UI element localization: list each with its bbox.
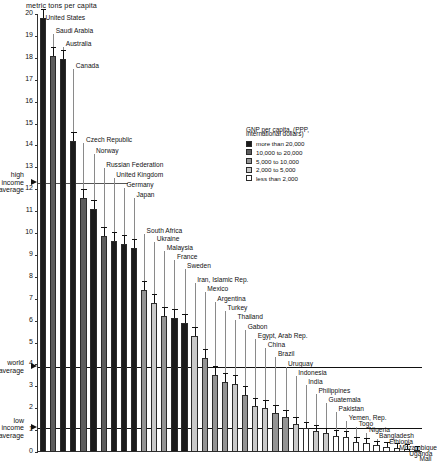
bar-saudi-arabia bbox=[50, 56, 56, 452]
bar-whisker bbox=[356, 437, 357, 442]
y-axis-tick-label: 12 bbox=[25, 184, 33, 191]
legend-label: less than 2,000 bbox=[256, 175, 298, 182]
legend-label: 2,000 to 5,000 bbox=[256, 166, 296, 173]
bar-russian-federation bbox=[101, 236, 107, 452]
label-leader-line bbox=[326, 403, 327, 428]
bar-australia bbox=[60, 59, 66, 452]
y-axis-tick-mark bbox=[35, 36, 38, 37]
bar-nigeria bbox=[363, 443, 369, 452]
whisker-cap bbox=[152, 294, 157, 295]
bar-iran-islamic-rep bbox=[191, 336, 197, 452]
legend-label: 5,000 to 10,000 bbox=[256, 158, 299, 165]
country-label-united-kingdom: United Kingdom bbox=[116, 171, 163, 178]
whisker-cap bbox=[61, 50, 66, 51]
y-axis-tick-label: 19 bbox=[25, 31, 33, 38]
legend-entry: less than 2,000 bbox=[246, 175, 421, 182]
whisker-cap bbox=[192, 327, 197, 328]
legend-swatch bbox=[246, 149, 252, 155]
y-axis-tick-mark bbox=[35, 14, 38, 15]
y-axis-tick-label: 18 bbox=[25, 53, 33, 60]
country-label-canada: Canada bbox=[76, 62, 99, 69]
whisker-cap bbox=[334, 430, 339, 431]
label-leader-line bbox=[235, 320, 236, 375]
y-axis-tick-mark bbox=[35, 124, 38, 125]
whisker-cap bbox=[314, 425, 319, 426]
reference-line-arrow bbox=[31, 179, 37, 185]
y-axis-tick-label: 14 bbox=[25, 140, 33, 147]
bar-malaysia bbox=[161, 316, 167, 452]
country-label-united-states: United States bbox=[46, 14, 86, 21]
y-axis-tick-mark bbox=[35, 386, 38, 387]
legend-entry: 2,000 to 5,000 bbox=[246, 166, 421, 173]
label-leader-line bbox=[306, 385, 307, 422]
bar-whisker bbox=[114, 232, 115, 241]
bar-whisker bbox=[265, 400, 266, 408]
bar-india bbox=[303, 428, 309, 452]
country-label-indonesia: Indonesia bbox=[298, 369, 327, 376]
bar-whisker bbox=[164, 307, 165, 316]
bar-whisker bbox=[195, 327, 196, 336]
chart-axis-title: metric tons per capita bbox=[26, 1, 97, 10]
bar-whisker bbox=[275, 405, 276, 413]
country-label-gabon: Gabon bbox=[248, 323, 268, 330]
legend-entries: more than 20,00010,000 to 20,0005,000 to… bbox=[246, 140, 421, 181]
country-label-india: India bbox=[308, 378, 322, 385]
country-label-philippines: Philippines bbox=[318, 387, 350, 394]
label-leader-line bbox=[164, 251, 165, 307]
label-leader-line bbox=[63, 47, 64, 50]
whisker-cap bbox=[172, 309, 177, 310]
whisker-cap bbox=[354, 437, 359, 438]
bar-argentina bbox=[212, 375, 218, 452]
y-axis-tick-mark bbox=[35, 102, 38, 103]
country-label-south-africa: South Africa bbox=[147, 227, 183, 234]
whisker-cap bbox=[132, 239, 137, 240]
label-leader-line bbox=[336, 412, 337, 430]
label-leader-line bbox=[225, 311, 226, 373]
y-axis-tick-mark bbox=[35, 452, 38, 453]
plot-area: 20191817161514131211109876543210 highinc… bbox=[38, 14, 422, 452]
bar-gabon bbox=[242, 395, 248, 452]
bar-ukraine bbox=[151, 303, 157, 452]
bar-togo bbox=[353, 442, 359, 452]
country-label-malaysia: Malaysia bbox=[167, 244, 193, 251]
y-axis-tick-label: 11 bbox=[26, 206, 33, 213]
reference-line-label: highincomeaverage bbox=[0, 171, 24, 194]
legend-entry: 10,000 to 20,000 bbox=[246, 149, 421, 156]
label-leader-line bbox=[377, 439, 378, 441]
whisker-cap bbox=[223, 373, 228, 374]
country-label-germany: Germany bbox=[126, 181, 153, 188]
country-label-france: France bbox=[177, 253, 198, 260]
y-axis-tick-label: 15 bbox=[25, 119, 33, 126]
country-label-russian-federation: Russian Federation bbox=[106, 161, 163, 168]
country-label-egypt-arab-rep: Egypt, Arab Rep. bbox=[258, 332, 308, 339]
y-axis-tick-label: 6 bbox=[29, 316, 33, 323]
bar-united-states bbox=[40, 18, 46, 452]
legend-swatch bbox=[246, 141, 252, 147]
label-leader-line bbox=[366, 433, 367, 438]
whisker-cap bbox=[112, 232, 117, 233]
legend-label: more than 20,000 bbox=[256, 140, 305, 147]
label-leader-line bbox=[265, 348, 266, 400]
y-axis-tick-mark bbox=[35, 343, 38, 344]
whisker-cap bbox=[304, 422, 309, 423]
y-axis-tick-mark bbox=[35, 408, 38, 409]
bar-mexico bbox=[202, 358, 208, 452]
bar-whisker bbox=[73, 132, 74, 141]
country-label-australia: Australia bbox=[66, 40, 92, 47]
country-label-czech-republic: Czech Republic bbox=[86, 136, 132, 143]
bar-pakistan bbox=[333, 436, 339, 452]
country-label-guatemala: Guatemala bbox=[329, 396, 361, 403]
label-leader-line bbox=[104, 168, 105, 227]
label-leader-line bbox=[356, 427, 357, 437]
bar-whisker bbox=[316, 425, 317, 431]
label-leader-line bbox=[83, 143, 84, 189]
y-axis-tick-label: 7 bbox=[29, 294, 33, 301]
bar-whisker bbox=[235, 375, 236, 384]
bar-united-kingdom bbox=[111, 241, 117, 452]
y-axis-tick-label: 5 bbox=[29, 338, 33, 345]
country-label-mexico: Mexico bbox=[207, 285, 228, 292]
reference-line-arrow bbox=[31, 363, 37, 369]
whisker-cap bbox=[162, 307, 167, 308]
country-label-pakistan: Pakistan bbox=[339, 405, 364, 412]
bar-whisker bbox=[377, 441, 378, 446]
